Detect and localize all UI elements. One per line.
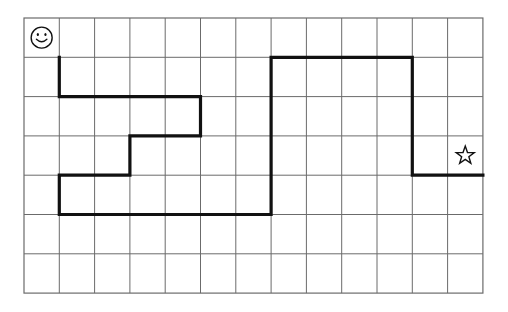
puzzle-canvas	[0, 0, 508, 312]
smiley-mouth	[36, 39, 46, 42]
smiley-eye-left	[37, 33, 39, 36]
smiley-outline	[31, 27, 52, 48]
grid-border	[24, 18, 483, 293]
star-outline	[456, 146, 474, 163]
grid-lines	[24, 18, 483, 293]
star-icon	[456, 146, 474, 163]
smiley-icon	[31, 27, 52, 48]
smiley-eye-right	[44, 33, 46, 36]
grid-path-figure	[0, 0, 508, 312]
grid-outer-border	[24, 18, 483, 293]
